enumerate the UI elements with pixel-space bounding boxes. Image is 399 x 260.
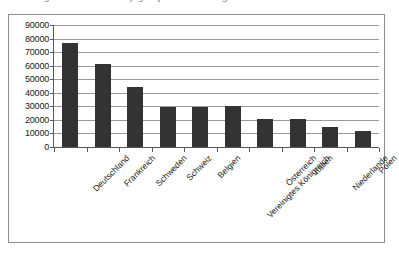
x-axis-tick	[87, 148, 88, 152]
y-axis-tick	[50, 79, 54, 80]
y-axis-labels: 0100002000030000400005000060000700008000…	[9, 15, 53, 244]
y-axis-tick-label: 90000	[25, 20, 49, 30]
bar[interactable]	[62, 43, 78, 147]
bar[interactable]	[355, 131, 371, 147]
x-axis-tick	[314, 148, 315, 152]
x-axis-tick	[217, 148, 218, 152]
x-axis-tick	[282, 148, 283, 152]
x-axis-tick	[379, 148, 380, 152]
x-axis-tick	[249, 148, 250, 152]
bar[interactable]	[95, 64, 111, 147]
bar[interactable]	[257, 119, 273, 147]
y-axis-tick-label: 10000	[25, 128, 49, 138]
y-axis-tick	[50, 66, 54, 67]
y-axis-line	[53, 25, 54, 148]
x-axis-tick	[184, 148, 185, 152]
y-axis-tick-label: 40000	[25, 88, 49, 98]
bar[interactable]	[160, 107, 176, 147]
y-axis-tick-label: 20000	[25, 115, 49, 125]
x-axis-tick	[152, 148, 153, 152]
x-axis-tick	[54, 148, 55, 152]
y-axis-tick-label: 0	[44, 142, 49, 152]
x-axis-category-label: Deutschland	[91, 153, 131, 193]
y-axis-tick	[50, 133, 54, 134]
y-axis-tick-label: 60000	[25, 61, 49, 71]
x-axis-category-label: Schweden	[154, 153, 189, 188]
y-axis-tick	[50, 25, 54, 26]
x-axis-category-label: Schweiz	[184, 153, 213, 182]
y-axis-tick	[50, 93, 54, 94]
chart-canvas: 0100002000030000400005000060000700008000…	[9, 15, 386, 244]
x-axis-tick	[119, 148, 120, 152]
x-axis-category-label: Belgien	[216, 153, 243, 180]
y-axis-tick	[50, 120, 54, 121]
bar[interactable]	[127, 87, 143, 147]
gridline	[54, 25, 379, 26]
cut-off-caption: Abbildung: Anzahl der Beschäftigten pro …	[8, 0, 384, 3]
y-axis-tick	[50, 39, 54, 40]
y-axis-tick-label: 30000	[25, 101, 49, 111]
bar[interactable]	[225, 106, 241, 147]
y-axis-tick-label: 70000	[25, 47, 49, 57]
bar[interactable]	[290, 119, 306, 147]
bar[interactable]	[322, 127, 338, 147]
x-axis-labels: DeutschlandFrankreichSchwedenSchweizBelg…	[54, 153, 379, 243]
y-axis-tick-label: 80000	[25, 34, 49, 44]
x-axis-tick	[347, 148, 348, 152]
gridline	[54, 52, 379, 53]
plot-area	[54, 25, 379, 147]
caption-text: Abbildung: Anzahl der Beschäftigten pro …	[8, 0, 247, 2]
y-axis-tick	[50, 52, 54, 53]
chart-frame: 0100002000030000400005000060000700008000…	[8, 14, 385, 243]
y-axis-tick	[50, 106, 54, 107]
gridline	[54, 39, 379, 40]
bar[interactable]	[192, 107, 208, 147]
y-axis-tick-label: 50000	[25, 74, 49, 84]
